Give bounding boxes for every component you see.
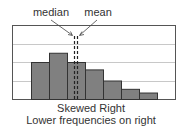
histogram-bar bbox=[68, 63, 86, 100]
histogram-bar bbox=[32, 63, 50, 100]
histogram-bar bbox=[104, 81, 122, 100]
median-label: median bbox=[33, 6, 69, 18]
histogram-bar bbox=[50, 53, 68, 99]
chart-title: Skewed Right bbox=[0, 102, 182, 114]
histogram-bar bbox=[122, 89, 140, 99]
mean-label: mean bbox=[84, 6, 112, 18]
chart-subtitle: Lower frequencies on right bbox=[0, 114, 182, 126]
histogram-bar bbox=[140, 93, 158, 99]
histogram-bar bbox=[86, 70, 104, 100]
skewed-histogram-figure: median mean Skewed Right Lower frequenci… bbox=[0, 0, 182, 127]
